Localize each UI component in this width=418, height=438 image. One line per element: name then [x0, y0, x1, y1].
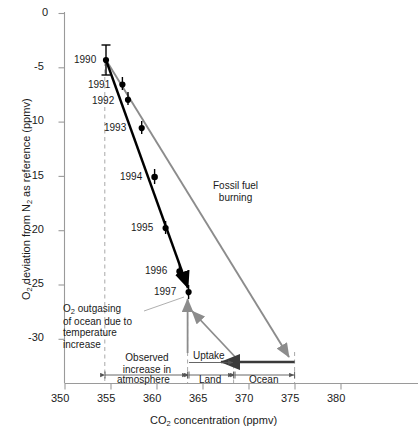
- x-tick-label-380: 380: [327, 392, 345, 404]
- point-label-1995: 1995: [131, 222, 153, 233]
- y-axis-title-a-sub: 2: [25, 287, 34, 291]
- x-tick-label-375: 375: [281, 392, 299, 404]
- segment-label-atmosphere: atmosphere: [117, 374, 170, 385]
- x-tick-label-365: 365: [189, 392, 207, 404]
- outgasing-leader-line: [144, 297, 184, 311]
- point-label-1994: 1994: [120, 171, 142, 182]
- x-tick-label-370: 370: [235, 392, 253, 404]
- point-label-1991: 1991: [88, 79, 110, 90]
- point-label-1993: 1993: [104, 122, 126, 133]
- annotation-observed-increase: Observed increase in: [106, 352, 188, 375]
- x-axis-title-post: concentration (ppmv): [171, 414, 277, 426]
- point-label-1996: 1996: [145, 265, 167, 276]
- x-axis-title-sub: 2: [167, 419, 171, 428]
- y-axis-title: O2 deviation from N2 as reference (ppmv): [20, 98, 32, 300]
- y-tick-label-m30: -30: [28, 331, 44, 343]
- segment-label-ocean: Ocean: [249, 374, 278, 385]
- chart-canvas: [0, 0, 418, 438]
- y-axis-title-a: O: [20, 291, 32, 300]
- outgasing-line1-pre: O: [63, 303, 71, 314]
- y-tick-label-0: 0: [42, 6, 48, 18]
- fossil-fuel-line2: burning: [213, 192, 258, 204]
- observed-line1: Observed: [106, 352, 188, 364]
- chart-figure: 0 -5 -10 -15 -20 -25 -30 350 355 360 365…: [0, 0, 418, 438]
- outgasing-line1: O2 outgasing: [63, 303, 145, 316]
- point-label-1992: 1992: [92, 95, 114, 106]
- y-axis-title-b-sub: 2: [25, 200, 34, 204]
- segment-label-land: Land: [199, 374, 221, 385]
- point-label-1997: 1997: [154, 286, 176, 297]
- y-axis-title-b: deviation from N: [20, 204, 32, 287]
- annotation-fossil-fuel-burning: Fossil fuel burning: [213, 180, 258, 203]
- annotation-o2-outgasing: O2 outgasing of ocean due to temperature…: [63, 303, 145, 350]
- point-label-1990: 1990: [74, 54, 96, 65]
- y-tick-label-m5: -5: [34, 60, 44, 72]
- x-tick-label-350: 350: [51, 392, 69, 404]
- outgasing-line3: temperature: [63, 327, 145, 339]
- outgasing-line1-post: outgasing: [75, 303, 121, 314]
- x-axis-title: CO2 concentration (ppmv): [150, 414, 277, 426]
- outgasing-line1-sub: 2: [71, 307, 75, 316]
- x-axis-title-pre: CO: [150, 414, 167, 426]
- outgasing-line4: increase: [63, 339, 145, 351]
- x-tick-label-360: 360: [143, 392, 161, 404]
- data-point-1994[interactable]: [151, 169, 158, 184]
- data-point-1991[interactable]: [119, 77, 125, 90]
- segment-label-uptake: Uptake: [193, 350, 225, 361]
- data-point-1996[interactable]: [176, 264, 182, 278]
- y-axis-title-c: as reference (ppmv): [20, 98, 32, 199]
- fossil-fuel-line1: Fossil fuel: [213, 180, 258, 192]
- outgasing-line2: of ocean due to: [63, 316, 145, 328]
- x-tick-label-355: 355: [97, 392, 115, 404]
